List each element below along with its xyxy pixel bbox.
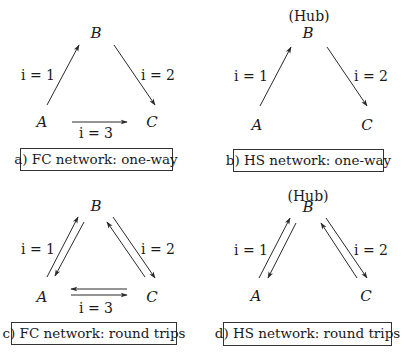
node-a-label: A [250,116,263,134]
arrow-c-to-b [321,223,357,278]
network-figure: B A C i = 1 i = 2 i = 3 a) FC network: o… [0,0,404,358]
panel-b-hs-one-way: (Hub) B A C i = 1 i = 2 b) HS network: o… [226,8,392,172]
hub-label: (Hub) [288,8,329,24]
panel-a-fc-one-way: B A C i = 1 i = 2 i = 3 a) FC network: o… [14,24,178,171]
arrow-b-to-a [268,223,296,278]
edge-label-i2: i = 2 [354,242,388,258]
node-a-label: A [35,113,48,131]
edge-label-i2: i = 2 [141,67,175,83]
panel-c-fc-round-trips: B A C i = 1 i = 2 i = 3 c) FC network: r… [2,197,185,345]
edge-label-i3: i = 3 [79,125,113,141]
node-a-label: A [249,287,262,305]
caption-c: c) FC network: round trips [2,325,185,341]
node-c-label: C [361,116,373,134]
arrow-b-to-a [55,222,84,276]
caption-b: b) HS network: one-way [226,152,392,168]
node-b-label: B [89,24,101,42]
edge-label-i1: i = 1 [21,67,55,83]
edge-label-i1: i = 1 [234,68,268,84]
node-c-label: C [146,288,158,306]
caption-d: d) HS network: round trips [215,325,401,341]
panel-d-hs-round-trips: (Hub) B A C i = 1 i = 2 d) HS network: r… [215,188,401,346]
edge-label-i1: i = 1 [21,241,55,257]
arrow-c-to-b [107,222,145,277]
edge-label-i2: i = 2 [141,241,175,257]
node-c-label: C [146,113,158,131]
node-c-label: C [360,287,372,305]
edge-label-i3: i = 3 [79,300,113,316]
node-a-label: A [35,288,48,306]
caption-a: a) FC network: one-way [14,151,178,167]
node-b-label: B [301,24,313,42]
edge-label-i1: i = 1 [234,242,268,258]
edge-label-i2: i = 2 [354,68,388,84]
node-b-label: B [89,197,101,215]
node-b-label: B [301,198,313,216]
